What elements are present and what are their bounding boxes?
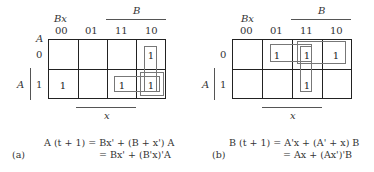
side-var-label: A: [202, 80, 209, 90]
x-underline: [76, 107, 136, 108]
b-overline: [106, 19, 166, 20]
row-header-1: 1: [220, 80, 226, 90]
caption: (b): [212, 150, 226, 160]
row-var-label: A: [36, 34, 43, 44]
equation-line2: = Bx' + (B'x)'A: [99, 150, 171, 160]
col-header-10: 10: [330, 26, 343, 36]
col-header-11: 11: [300, 26, 313, 36]
col-var-label: Bx: [241, 14, 254, 24]
top-var-label: B: [318, 6, 325, 16]
a-brace: [30, 68, 31, 100]
col-header-01: 01: [270, 26, 283, 36]
col-header-00: 00: [55, 26, 68, 36]
equation-line1: A (t + 1) = Bx' + (B + x') A: [44, 138, 174, 148]
bottom-var-label: x: [104, 111, 110, 121]
x-underline: [262, 107, 322, 108]
side-var-label: A: [17, 80, 24, 90]
b-overline: [291, 19, 351, 20]
col-header-01: 01: [85, 26, 98, 36]
group-bx: [300, 46, 312, 92]
top-var-label: B: [133, 6, 140, 16]
col-var-label: Bx: [54, 14, 67, 24]
group-ax-prime: [140, 72, 164, 96]
col-header-11: 11: [115, 26, 128, 36]
bottom-var-label: x: [290, 111, 296, 121]
col-header-10: 10: [145, 26, 158, 36]
row-header-1: 1: [36, 80, 42, 90]
caption: (a): [12, 150, 25, 160]
a-brace: [214, 68, 215, 100]
row-header-0: 0: [220, 50, 226, 60]
cell-1-00: 1: [58, 81, 68, 91]
row-header-0: 0: [36, 50, 42, 60]
equation-line2: = Ax + (Ax')'B: [283, 150, 352, 160]
equation-line1: B (t + 1) = A'x + (A' + x) B: [229, 138, 359, 148]
col-header-00: 00: [240, 26, 253, 36]
